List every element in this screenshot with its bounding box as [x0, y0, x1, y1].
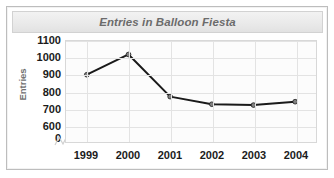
- gridline-vertical: [171, 41, 172, 142]
- gridline-vertical: [213, 41, 214, 142]
- gridline-vertical: [129, 41, 130, 142]
- chart-title: Entries in Balloon Fiesta: [99, 16, 236, 28]
- gridline-horizontal: [66, 110, 316, 111]
- y-tick-label: 1000: [15, 52, 61, 63]
- y-tick-label: 700: [15, 104, 61, 115]
- gridline-horizontal: [66, 58, 316, 59]
- chart-title-band: Entries in Balloon Fiesta: [12, 11, 323, 33]
- y-tick-label: 1100: [15, 35, 61, 46]
- gridline-vertical: [87, 41, 88, 142]
- gridline-horizontal: [66, 41, 316, 42]
- gridline-horizontal: [66, 127, 316, 128]
- chart-figure: Entries in Balloon Fiesta Entries 110010…: [6, 6, 328, 170]
- y-tick-label: 600: [15, 121, 61, 132]
- gridline-vertical: [297, 41, 298, 142]
- y-tick-label: 900: [15, 69, 61, 80]
- gridline-horizontal: [66, 93, 316, 94]
- series-line: [87, 54, 295, 105]
- y-axis-tick-labels: 110010009008007006000: [13, 40, 61, 143]
- gridline-vertical: [255, 41, 256, 142]
- y-tick-label: 800: [15, 87, 61, 98]
- x-tick-label: 2004: [270, 149, 322, 161]
- gridline-horizontal: [66, 75, 316, 76]
- x-axis-tick-labels: 199920002001200220032004: [65, 149, 317, 163]
- plot-area: [65, 40, 317, 143]
